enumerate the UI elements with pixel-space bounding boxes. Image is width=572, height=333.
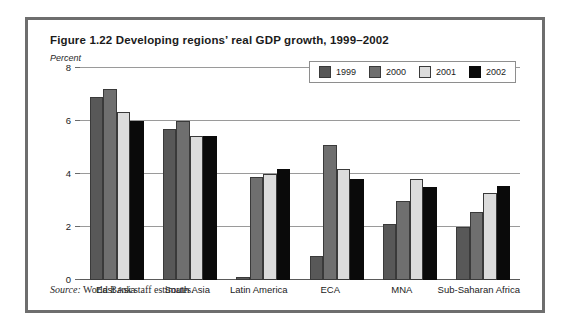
source-note-text: World Bank staff estimates.: [81, 284, 194, 295]
x-axis-label: MNA: [366, 284, 438, 295]
bar-group: [447, 68, 520, 280]
y-tick-label-6: 6: [66, 115, 71, 126]
bar[interactable]: [310, 256, 324, 280]
legend-label: 2000: [386, 67, 406, 77]
source-note: Source: World Bank staff estimates.: [50, 284, 194, 295]
legend-swatch-icon: [369, 66, 381, 78]
bar-group: [300, 68, 373, 280]
bar[interactable]: [483, 193, 497, 280]
legend-label: 2001: [436, 67, 456, 77]
bar[interactable]: [163, 129, 177, 280]
legend-item-2001[interactable]: 2001: [419, 66, 456, 78]
figure-frame: Figure 1.22 Developing regions’ real GDP…: [25, 17, 545, 313]
bar[interactable]: [236, 277, 250, 280]
bar[interactable]: [470, 212, 484, 280]
legend-item-1999[interactable]: 1999: [319, 66, 356, 78]
bar[interactable]: [90, 97, 104, 280]
bar-group: [227, 68, 300, 280]
x-axis-label: Sub-Saharan Africa: [438, 284, 520, 295]
bar[interactable]: [277, 169, 291, 280]
x-axis-label: ECA: [295, 284, 367, 295]
bar-group: [153, 68, 226, 280]
bar[interactable]: [103, 89, 117, 280]
bar[interactable]: [176, 121, 190, 280]
bar[interactable]: [456, 227, 470, 280]
legend-swatch-icon: [319, 66, 331, 78]
y-tick-label-4: 4: [66, 168, 71, 179]
figure-title: Figure 1.22 Developing regions’ real GDP…: [50, 34, 389, 46]
y-tick-label-2: 2: [66, 221, 71, 232]
bar[interactable]: [410, 179, 424, 280]
legend-swatch-icon: [469, 66, 481, 78]
bar-group: [373, 68, 446, 280]
bar[interactable]: [130, 121, 144, 280]
legend-label: 1999: [336, 67, 356, 77]
legend-swatch-icon: [419, 66, 431, 78]
x-axis-label: Latin America: [223, 284, 295, 295]
bar[interactable]: [337, 169, 351, 280]
chart-plot-area: 02468: [80, 68, 520, 280]
y-tick-label-0: 0: [66, 274, 71, 285]
y-tick-label-8: 8: [66, 62, 71, 73]
bars-layer: [80, 68, 520, 280]
bar-group: [80, 68, 153, 280]
bar[interactable]: [423, 187, 437, 280]
source-note-label: Source:: [50, 284, 81, 295]
bar[interactable]: [350, 179, 364, 280]
chart-legend: 1999200020012002: [309, 61, 516, 83]
bar[interactable]: [263, 174, 277, 280]
legend-item-2000[interactable]: 2000: [369, 66, 406, 78]
bar[interactable]: [203, 136, 217, 280]
bar[interactable]: [323, 145, 337, 280]
bar[interactable]: [190, 136, 204, 280]
bar[interactable]: [497, 186, 511, 280]
bar[interactable]: [250, 177, 264, 280]
chart-plot-inner: 02468: [80, 68, 520, 280]
legend-item-2002[interactable]: 2002: [469, 66, 506, 78]
legend-label: 2002: [486, 67, 506, 77]
bar[interactable]: [383, 224, 397, 280]
bar[interactable]: [117, 112, 131, 280]
bar[interactable]: [396, 201, 410, 281]
